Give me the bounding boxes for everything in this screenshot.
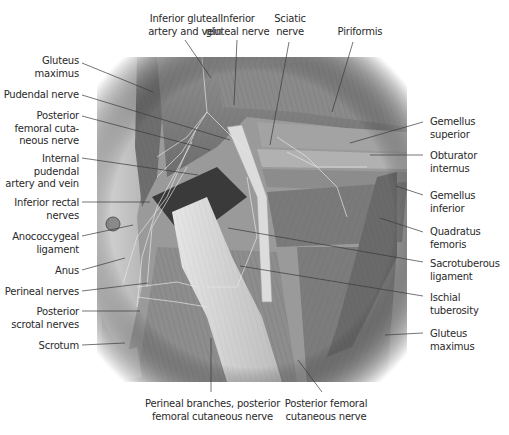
label-internal-pudendal-artery-vein: Internal pudendal artery and vein xyxy=(5,153,79,191)
label-sciatic-nerve: Sciatic nerve xyxy=(268,13,312,38)
label-scrotum: Scrotum xyxy=(39,340,79,353)
label-gemellus-inferior: Gemellus inferior xyxy=(430,190,475,215)
label-anus: Anus xyxy=(55,265,79,278)
anatomical-illustration xyxy=(97,57,407,382)
label-obturator-internus: Obturator internus xyxy=(430,150,477,175)
label-perineal-nerves: Perineal nerves xyxy=(5,286,79,299)
label-perineal-branches-pfcn: Perineal branches, posterior femoral cut… xyxy=(145,398,280,423)
label-posterior-femoral-cutaneous-nerve-upper: Posterior femoral cuta- neous nerve xyxy=(14,110,79,148)
label-posterior-scrotal-nerves: Posterior scrotal nerves xyxy=(11,306,79,331)
label-inferior-gluteal-nerve: Inferior gluteal nerve xyxy=(200,13,275,38)
label-piriformis: Piriformis xyxy=(330,26,390,39)
label-pudendal-nerve: Pudendal nerve xyxy=(4,89,79,102)
label-gemellus-superior: Gemellus superior xyxy=(430,116,475,141)
label-sacrotuberous-ligament: Sacrotuberous ligament xyxy=(430,258,500,283)
label-gluteus-maximus-left: Gluteus maximus xyxy=(35,55,79,80)
gluteal-region-drawing xyxy=(97,57,407,382)
label-gluteus-maximus-right: Gluteus maximus xyxy=(430,328,474,353)
label-ischial-tuberosity: Ischial tuberosity xyxy=(430,292,479,317)
label-quadratus-femoris: Quadratus femoris xyxy=(430,226,481,251)
label-posterior-femoral-cutaneous-nerve-lower: Posterior femoral cutaneous nerve xyxy=(280,398,372,423)
label-anococcygeal-ligament: Anococcygeal ligament xyxy=(12,231,79,256)
label-inferior-rectal-nerves: Inferior rectal nerves xyxy=(14,197,79,222)
